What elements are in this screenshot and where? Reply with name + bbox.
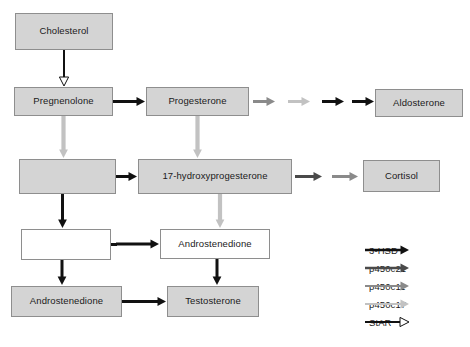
legend-item-label: 3-HSD (369, 245, 398, 256)
edge-cholesterol-pregnenolone (59, 50, 68, 86)
node-blank-gray (19, 159, 116, 194)
node-17-ohp: 17-hydroxyprogesterone (138, 159, 292, 194)
edge-progesterone-17ohp (193, 116, 202, 158)
node-label: Cortisol (385, 171, 418, 181)
edge-blankwhite-androstenedione-head (116, 240, 159, 249)
legend-item-label: p450c21 (369, 263, 406, 274)
edge-progesterone-aldosterone-seg1 (253, 97, 275, 106)
node-label: Testosterone (185, 296, 241, 306)
legend-item-star: StAR (363, 315, 392, 329)
edge-17ohp-androstenedione (216, 194, 225, 228)
edge-progesterone-aldosterone-seg4 (352, 97, 374, 106)
diagram-canvas: CholesterolPregnenoloneProgesteroneAldos… (0, 0, 470, 347)
edge-androstenedione-testosterone (213, 259, 222, 285)
edge-pregnenolone-blankgray (59, 116, 68, 158)
edge-progesterone-aldosterone-seg2 (288, 97, 310, 106)
node-label: Aldosterone (393, 98, 445, 108)
node-blank-white (21, 229, 111, 260)
edge-blankwhite-androstenedione (111, 243, 117, 245)
node-testosterone: Testosterone (167, 286, 259, 317)
node-progesterone: Progesterone (146, 87, 249, 116)
legend-item-3-hsd: 3-HSD (363, 243, 398, 257)
node-cholesterol: Cholesterol (15, 13, 113, 50)
edge-blankwhite-androstenedionegray (58, 260, 67, 285)
node-androstenedione-white: Androstenedione (160, 229, 270, 259)
edge-pregnenolone-progesterone (113, 97, 145, 106)
node-label: Androstenedione (30, 296, 103, 306)
legend-item-label: StAR (369, 317, 392, 328)
edge-blankgray-blankwhite (58, 194, 67, 228)
node-pregnenolone: Pregnenolone (14, 87, 113, 116)
legend-item-label: p450c17 (369, 299, 406, 310)
node-aldosterone: Aldosterone (375, 89, 463, 117)
legend-item-p450c21: p450c21 (363, 261, 406, 275)
edge-androstenedionegray-testosterone (122, 297, 166, 306)
legend-item-p450c17: p450c17 (363, 297, 406, 311)
node-label: 17-hydroxyprogesterone (162, 171, 267, 181)
edge-progesterone-aldosterone-seg3 (322, 97, 344, 106)
edge-blankgray-17ohp (116, 172, 137, 181)
node-label: Pregnenolone (33, 96, 93, 106)
edge-17ohp-cortisol-seg2 (332, 172, 358, 181)
node-cortisol: Cortisol (363, 160, 440, 192)
edge-17ohp-cortisol-seg1 (295, 172, 322, 181)
legend-item-p450c11: p450c11 (363, 279, 405, 293)
node-label: Progesterone (168, 96, 226, 106)
node-label: Androstenedione (178, 239, 251, 249)
node-label: Cholesterol (39, 26, 88, 36)
node-androstenedione-gray: Androstenedione (11, 286, 122, 317)
legend-item-label: p450c11 (369, 281, 405, 292)
